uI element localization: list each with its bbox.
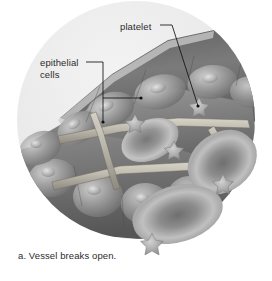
label-platelet: platelet bbox=[120, 21, 151, 33]
figure-caption: a. Vessel breaks open. bbox=[18, 250, 116, 261]
label-epithelial-line2: cells bbox=[40, 69, 79, 81]
label-epithelial-cells: epithelial cells bbox=[40, 57, 79, 80]
illustration-canvas bbox=[0, 0, 272, 281]
label-epithelial-line1: epithelial bbox=[40, 57, 79, 69]
figure-vessel-breaks-open: epithelial cells platelet a. Vessel brea… bbox=[0, 0, 272, 281]
